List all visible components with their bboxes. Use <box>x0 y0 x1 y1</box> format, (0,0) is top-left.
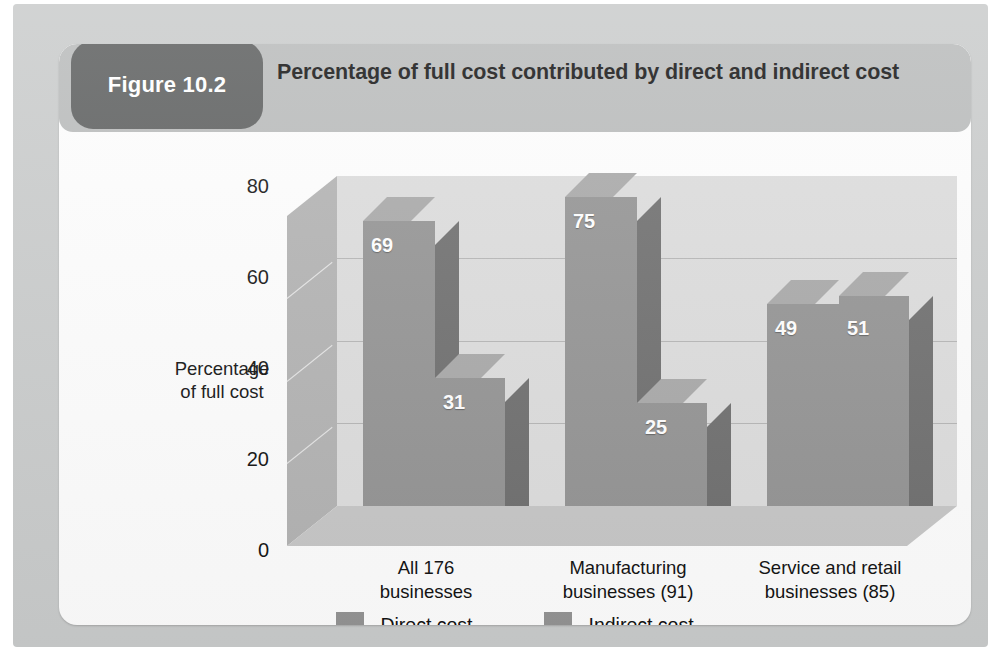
category-label-3-line2: businesses (85) <box>720 580 940 604</box>
bar-g2-indirect: 25 <box>637 403 707 506</box>
legend-swatch-indirect-cost <box>544 612 572 625</box>
y-tick-0: 0 <box>227 540 269 560</box>
y-tick-60: 60 <box>227 267 269 287</box>
bar-g1-direct: 69 <box>363 221 435 506</box>
y-axis-title-line2: of full cost <box>163 380 281 403</box>
legend-item-indirect-cost: Indirect cost <box>544 612 693 625</box>
bar-g3-indirect-value: 51 <box>847 318 869 338</box>
category-label-2-line1: Manufacturing <box>518 556 738 580</box>
chart-region: Percentage of full cost 80 60 40 20 0 <box>59 132 971 625</box>
figure-outer-panel: Figure 10.2 Percentage of full cost cont… <box>13 4 988 647</box>
figure-title: Percentage of full cost contributed by d… <box>277 59 937 86</box>
category-label-2-line2: businesses (91) <box>518 580 738 604</box>
legend-swatch-direct-cost <box>336 612 364 625</box>
category-label-1-line1: All 176 <box>316 556 536 580</box>
bar-g2-direct-value: 75 <box>573 211 595 231</box>
figure-card: Figure 10.2 Percentage of full cost cont… <box>59 44 971 625</box>
figure-number-label: Figure 10.2 <box>108 72 226 98</box>
legend-label-indirect-cost: Indirect cost <box>588 614 693 626</box>
bar-g3-direct: 49 <box>767 304 839 506</box>
bar-g1-direct-value: 69 <box>371 235 393 255</box>
legend-item-direct-cost: Direct cost <box>336 612 472 625</box>
category-label-1-line2: businesses <box>316 580 536 604</box>
category-label-3: Service and retail businesses (85) <box>720 556 940 604</box>
bar-g1-indirect: 31 <box>435 378 505 506</box>
bar-g2-direct-front <box>565 197 637 506</box>
bar-g3-direct-value: 49 <box>775 318 797 338</box>
bar-g2-indirect-value: 25 <box>645 417 667 437</box>
figure-number-pill: Figure 10.2 <box>71 44 263 129</box>
y-tick-20: 20 <box>227 449 269 469</box>
category-label-1: All 176 businesses <box>316 556 536 604</box>
y-tick-80: 80 <box>227 176 269 196</box>
bar-g1-indirect-value: 31 <box>443 392 465 412</box>
figure-header-band: Figure 10.2 Percentage of full cost cont… <box>59 44 971 132</box>
bar-g3-indirect-side <box>909 296 933 506</box>
category-label-3-line1: Service and retail <box>720 556 940 580</box>
bar-g1-direct-front <box>363 221 435 506</box>
category-label-2: Manufacturing businesses (91) <box>518 556 738 604</box>
plot-area: 69 31 75 <box>287 176 957 546</box>
bar-g2-direct: 75 <box>565 197 637 506</box>
bar-g3-indirect: 51 <box>839 296 909 506</box>
chart-legend: Direct cost Indirect cost <box>59 612 971 625</box>
y-tick-40: 40 <box>227 358 269 378</box>
legend-label-direct-cost: Direct cost <box>380 614 472 626</box>
